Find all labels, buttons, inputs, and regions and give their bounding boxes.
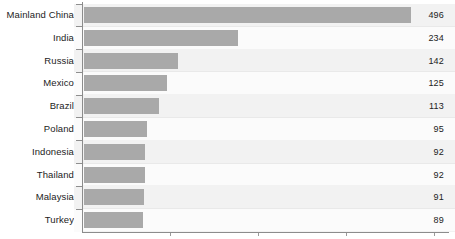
chart-row: Turkey89 [0, 209, 455, 232]
chart-row: Mexico125 [0, 72, 455, 95]
bar [84, 7, 411, 23]
category-label: Thailand [0, 164, 74, 187]
bar-value-label: 91 [404, 186, 444, 209]
chart-row: Mainland China496 [0, 4, 455, 27]
x-axis-tick [170, 233, 171, 236]
bar [84, 144, 145, 160]
bar-value-label: 113 [404, 95, 444, 118]
bar-value-label: 125 [404, 72, 444, 95]
chart-row: Poland95 [0, 118, 455, 141]
bar [84, 121, 147, 137]
category-label: Russia [0, 50, 74, 73]
bar-value-label: 142 [404, 50, 444, 73]
bar [84, 212, 143, 228]
category-label: Turkey [0, 209, 74, 232]
category-label: Brazil [0, 95, 74, 118]
chart-rows: Mainland China496India234Russia142Mexico… [0, 4, 455, 232]
bar-chart: Mainland China496India234Russia142Mexico… [0, 0, 455, 239]
bar [84, 167, 145, 183]
bar [84, 75, 167, 91]
category-label: Indonesia [0, 141, 74, 164]
bar-value-label: 234 [404, 27, 444, 50]
bar [84, 98, 159, 114]
bar-value-label: 92 [404, 141, 444, 164]
chart-row: India234 [0, 27, 455, 50]
y-axis-line [82, 2, 83, 233]
bar-value-label: 95 [404, 118, 444, 141]
chart-row: Malaysia91 [0, 186, 455, 209]
bar [84, 189, 144, 205]
category-label: India [0, 27, 74, 50]
bar-value-label: 92 [404, 164, 444, 187]
chart-row: Indonesia92 [0, 141, 455, 164]
chart-row: Russia142 [0, 50, 455, 73]
chart-row: Thailand92 [0, 164, 455, 187]
bar [84, 30, 238, 46]
bar-value-label: 496 [404, 4, 444, 27]
category-label: Malaysia [0, 186, 74, 209]
bar-value-label: 89 [404, 209, 444, 232]
category-label: Poland [0, 118, 74, 141]
chart-row: Brazil113 [0, 95, 455, 118]
bar [84, 53, 178, 69]
category-label: Mainland China [0, 4, 74, 27]
x-axis-tick [258, 233, 259, 236]
category-label: Mexico [0, 72, 74, 95]
x-axis-line [82, 232, 449, 233]
clipped-caption [330, 234, 455, 239]
